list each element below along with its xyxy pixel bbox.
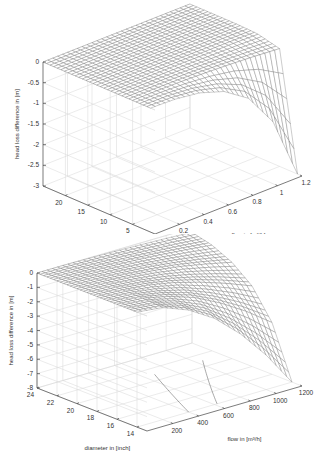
diameter-tick [137, 426, 139, 427]
z-tick-label: -7 [27, 370, 33, 377]
flow-tick [300, 385, 302, 386]
y-tick-labels: 5101520 [55, 199, 130, 234]
surface-plot-1: 0-0.5-1-1.5-2-2.5-3 5101520 0.20.40.60.8… [0, 0, 320, 234]
z-axis-label: head loss difference in [m] [8, 295, 14, 365]
floor-grid-line [63, 381, 173, 424]
floor-grid-line [97, 366, 252, 411]
surface-plot-2: 0-1-2-3-4-5-6-7-8 141618202224 200400600… [0, 234, 320, 469]
diameter-tick-label: 14 [127, 430, 135, 437]
flow-tick-label: 200 [171, 427, 182, 434]
z-tick-label: -1.5 [28, 120, 40, 127]
y-axis-label: diameter in [inch] [85, 445, 131, 451]
z-tick-label: -5 [27, 341, 33, 348]
mesh-layer [43, 4, 298, 174]
floor-grid-line [57, 351, 212, 396]
x-axis-label: flow in [m³/h] [227, 436, 261, 442]
diameter-tick-label: 22 [47, 399, 55, 406]
diameter-tick [65, 195, 67, 196]
x-tick-labels: 20040060080010001200 [171, 389, 313, 434]
z-tick-label: 0 [35, 58, 39, 65]
diameter-tick [110, 214, 112, 215]
diameter-tick [97, 410, 99, 411]
z-tick-label: -1 [27, 283, 33, 290]
z-tick-label: -4 [27, 327, 33, 334]
diameter-tick [117, 418, 119, 419]
x-tick-labels: 0.20.40.60.811.2 [179, 179, 311, 234]
z-tick-label: -3 [33, 182, 39, 189]
floor-grid-line [166, 138, 278, 186]
z-tick-label: -1 [33, 99, 39, 106]
floor-contour [203, 360, 217, 403]
floor-grid-line [92, 167, 204, 215]
flow-tick-label: 800 [249, 404, 260, 411]
floor-grid-line [115, 366, 225, 409]
diameter-axis [37, 388, 147, 431]
z-tick-label: -2 [33, 141, 39, 148]
diameter-tick-label: 20 [55, 199, 63, 206]
flow-tick [227, 204, 229, 205]
floor-grid-line [140, 358, 250, 401]
z-tick-label: -8 [27, 384, 33, 391]
z-axis-label: head loss difference in [m] [14, 89, 20, 159]
flow-tick-label: 0.4 [203, 218, 212, 225]
flow-tick [248, 400, 250, 401]
floor-grid-line [117, 374, 272, 419]
flow-tick-label: 1 [280, 189, 284, 196]
flow-tick [202, 214, 204, 215]
flow-tick-label: 600 [223, 412, 234, 419]
diameter-tick-label: 20 [67, 407, 75, 414]
diameter-tick [57, 395, 59, 396]
floor-grid-line [89, 373, 199, 416]
flow-tick-label: 0.8 [252, 198, 261, 205]
diameter-tick-label: 15 [78, 208, 86, 215]
floor-grid-line [137, 382, 292, 427]
floor-grid-line [117, 157, 229, 205]
flow-tick [223, 408, 225, 409]
flow-tick [300, 175, 302, 176]
flow-tick [171, 423, 173, 424]
z-tick-label: -2 [27, 298, 33, 305]
flow-tick-label: 400 [197, 419, 208, 426]
contour-layer [155, 360, 218, 412]
z-tick-labels: 0-1-2-3-4-5-6-7-8 [27, 269, 33, 391]
floor-grid-line [141, 147, 253, 195]
floor-grid-line [68, 176, 180, 224]
flow-tick-label: 0.6 [228, 208, 237, 215]
flow-tick [274, 393, 276, 394]
diameter-tick-label: 24 [27, 391, 35, 398]
y-tick-labels: 141618202224 [27, 391, 135, 437]
z-tick-labels: 0-0.5-1-1.5-2-2.5-3 [28, 58, 40, 189]
diameter-tick-label: 10 [100, 218, 108, 225]
flow-tick-label: 1.2 [301, 179, 310, 186]
flow-tick-label: 1000 [273, 397, 288, 404]
diameter-tick-label: 16 [107, 422, 115, 429]
diameter-tick-label: 18 [87, 414, 95, 421]
diameter-tick [77, 403, 79, 404]
z-tick-label: -6 [27, 355, 33, 362]
z-tick-label: -2.5 [28, 161, 40, 168]
diameter-tick [133, 223, 135, 224]
flow-tick [178, 223, 180, 224]
diameter-tick [88, 204, 90, 205]
z-tick-label: -0.5 [28, 79, 40, 86]
z-tick-label: -3 [27, 312, 33, 319]
flow-tick-label: 1200 [299, 389, 314, 396]
diameter-axis [43, 186, 155, 234]
floor-grid-line [166, 351, 276, 394]
flow-tick-label: 0.2 [179, 227, 188, 234]
flow-tick [197, 415, 199, 416]
flow-tick [251, 194, 253, 195]
z-tick-label: 0 [29, 269, 33, 276]
diameter-tick-label: 5 [126, 227, 130, 234]
flow-tick [276, 185, 278, 186]
